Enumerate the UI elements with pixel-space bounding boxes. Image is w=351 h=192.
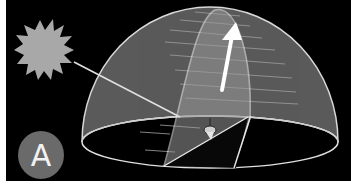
- figure-label: A: [31, 138, 52, 173]
- diagram-panel: A: [6, 0, 351, 181]
- figure-label-badge: A: [18, 131, 64, 179]
- sun-icon: [14, 19, 74, 80]
